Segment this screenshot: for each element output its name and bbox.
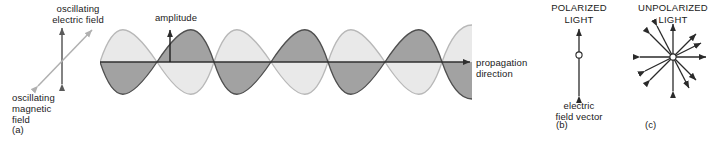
- polarization-figure: oscillating electric field oscillating m…: [0, 0, 728, 141]
- label-oscillating-magnetic-field: oscillating magnetic field: [12, 92, 55, 125]
- panel-tag-a: (a): [12, 124, 24, 135]
- unpolarized-center-circle-icon: [670, 54, 676, 60]
- label-amplitude: amplitude: [155, 12, 197, 23]
- panel-tag-b: (b): [556, 119, 568, 130]
- magnetic-field-arrow-icon: [38, 30, 92, 86]
- panel-a-wave-diagram: [0, 0, 728, 141]
- photon-open-circle-icon: [576, 52, 582, 58]
- heading-polarized-light: POLARIZED LIGHT: [551, 2, 607, 25]
- panel-b-polarized: [576, 29, 582, 96]
- label-oscillating-electric-field: oscillating electric field: [52, 3, 104, 25]
- heading-unpolarized-light: UNPOLARIZED LIGHT: [638, 2, 708, 25]
- label-propagation-direction: propagation direction: [476, 57, 527, 79]
- panel-tag-c: (c): [645, 119, 656, 130]
- panel-c-unpolarized: [640, 24, 706, 91]
